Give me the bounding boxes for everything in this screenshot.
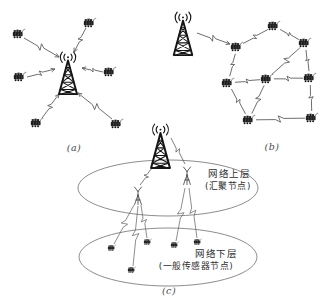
wireless-link <box>306 50 310 71</box>
upper-layer-label-line1: 网络上层 <box>208 168 250 179</box>
sensor-node-icon <box>104 67 116 77</box>
subfigure-a-star <box>13 18 123 129</box>
wireless-link <box>235 79 260 83</box>
sensor-node-icon <box>128 266 136 272</box>
sensor-node-icon <box>304 73 316 83</box>
base-station-tower-icon <box>151 124 170 168</box>
wireless-link <box>74 28 86 52</box>
network-topology-figure: 网络上层 (汇聚节点) 网络下层 (一般传感器节点) (a) (b) (c) <box>0 0 329 306</box>
sensor-node-icon <box>261 74 273 84</box>
sensor-node-icon <box>243 115 255 125</box>
sensor-node-icon <box>108 244 116 250</box>
sensor-node-icon <box>13 29 25 39</box>
wireless-link <box>230 54 236 76</box>
wireless-link <box>274 76 303 81</box>
wireless-link <box>243 30 268 44</box>
wireless-link <box>27 69 55 77</box>
wireless-link <box>24 38 59 57</box>
wireless-link <box>280 29 299 39</box>
sink-node-icon <box>184 167 191 185</box>
sensor-node-icon <box>194 238 202 244</box>
sensor-node-icon <box>14 72 26 82</box>
lower-layer-label-line2: (一般传感器节点) <box>159 260 233 271</box>
wireless-link <box>132 206 139 266</box>
sensor-node-icon <box>268 21 280 31</box>
sensor-node-icon <box>144 238 152 244</box>
sensor-node-icon <box>231 42 243 52</box>
subfigure-b-mesh <box>174 12 319 124</box>
sensor-node-icon <box>299 38 311 48</box>
caption-c: (c) <box>162 285 176 296</box>
wireless-link <box>140 168 152 185</box>
caption-b: (b) <box>265 141 280 152</box>
sensor-node-icon <box>111 119 123 129</box>
upper-layer-label-line2: (汇聚节点) <box>205 181 251 191</box>
wireless-link <box>78 93 112 119</box>
sink-node-icon <box>135 187 142 205</box>
base-station-tower-icon <box>174 12 192 55</box>
caption-a: (a) <box>67 142 82 153</box>
sensor-node-icon <box>171 241 179 247</box>
wireless-link <box>252 85 264 113</box>
wireless-link <box>42 94 59 118</box>
wireless-link <box>176 188 185 241</box>
sensor-node-icon <box>306 113 318 123</box>
wireless-link <box>256 116 305 122</box>
figure-page: 网络上层 (汇聚节点) 网络下层 (一般传感器节点) (a) (b) (c) <box>0 0 329 306</box>
wireless-link <box>189 188 197 238</box>
lower-layer-label-line1: 网络下层 <box>195 248 237 259</box>
wireless-link <box>309 85 313 111</box>
wireless-link <box>197 33 230 44</box>
sensor-node-icon <box>84 18 96 28</box>
wireless-link <box>232 89 246 114</box>
wireless-link <box>272 48 300 74</box>
wireless-link <box>141 205 147 238</box>
sensor-node-icon <box>31 118 43 128</box>
base-station-tower-icon <box>59 52 77 94</box>
sensor-node-icon <box>222 78 234 88</box>
